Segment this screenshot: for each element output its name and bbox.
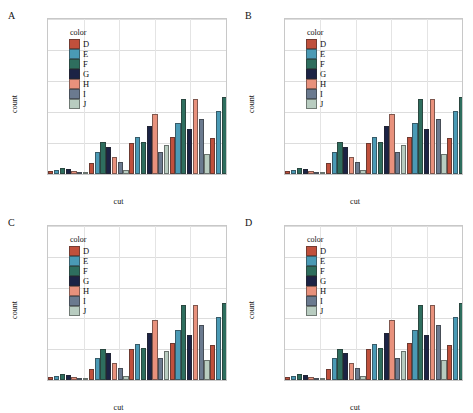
- y-axis-tick-mark: [284, 50, 285, 51]
- panel-label: B: [245, 10, 252, 21]
- legend-label-j: J: [320, 306, 326, 316]
- y-axis-tick-mark: [47, 81, 48, 82]
- bar-very-good-h: [389, 114, 394, 174]
- legend-swatch-f: [306, 266, 317, 276]
- gridline-horizontal: [285, 174, 462, 175]
- bar-very-good-g: [384, 126, 389, 174]
- bar-premium-f: [181, 305, 186, 380]
- y-axis-tick-mark: [284, 287, 285, 288]
- bar-fair-g: [303, 375, 308, 380]
- legend-label-h: H: [320, 286, 326, 296]
- bar-fair-i: [77, 378, 82, 380]
- bar-group: [325, 226, 365, 380]
- bar-fair-e: [54, 376, 59, 380]
- bar-very-good-g: [384, 333, 389, 380]
- legend-swatch-d: [306, 246, 317, 256]
- bar-group: [88, 226, 128, 380]
- bar-premium-g: [187, 335, 192, 380]
- bar-premium-d: [170, 343, 175, 380]
- bar-group: [169, 226, 209, 380]
- bar-good-d: [89, 369, 94, 380]
- bar-fair-i: [314, 172, 319, 174]
- bar-very-good-d: [129, 349, 134, 380]
- bar-very-good-j: [401, 351, 406, 380]
- bar-premium-d: [407, 343, 412, 380]
- chart-panel-d: Dcountcut0e+001e+052e+053e+054e+055e+05F…: [237, 207, 473, 413]
- bar-fair-d: [285, 377, 290, 380]
- bar-good-g: [106, 147, 111, 174]
- plot-wrapper: 0e+001e+052e+053e+054e+055e+05FairGoodVe…: [284, 18, 463, 175]
- bar-group: [406, 19, 446, 174]
- bar-good-d: [326, 163, 331, 174]
- bar-premium-j: [441, 154, 446, 174]
- bar-fair-f: [297, 168, 302, 174]
- legend-swatch-d: [306, 39, 317, 49]
- bar-good-d: [326, 369, 331, 380]
- bar-good-f: [337, 349, 342, 380]
- bar-premium-h: [430, 99, 435, 174]
- bar-fair-d: [48, 171, 53, 174]
- bar-premium-d: [407, 137, 412, 174]
- bar-fair-e: [291, 170, 296, 174]
- bar-fair-h: [308, 377, 313, 380]
- legend-label-j: J: [83, 306, 89, 316]
- legend-swatch-e: [69, 49, 80, 59]
- legend-label-f: F: [320, 266, 326, 276]
- bar-ideal-d: [447, 138, 452, 174]
- bar-group: [210, 19, 227, 174]
- y-axis-tick-mark: [47, 143, 48, 144]
- y-axis-tick-mark: [284, 174, 285, 175]
- legend-title: color: [69, 235, 89, 244]
- bar-ideal-d: [210, 138, 215, 174]
- legend-label-i: I: [320, 296, 326, 306]
- bar-group: [325, 19, 365, 174]
- legend-swatch-column: [69, 39, 80, 109]
- legend-swatch-f: [69, 59, 80, 69]
- legend-label-j: J: [320, 99, 326, 109]
- bar-ideal-e: [216, 317, 221, 380]
- y-axis-tick-mark: [47, 174, 48, 175]
- bar-good-i: [118, 162, 123, 174]
- bar-good-h: [349, 363, 354, 380]
- legend-swatch-column: [306, 39, 317, 109]
- gridline-horizontal: [285, 380, 462, 381]
- bar-fair-i: [314, 378, 319, 380]
- bar-very-good-f: [378, 142, 383, 174]
- bar-good-g: [343, 147, 348, 174]
- bar-group: [366, 19, 406, 174]
- bar-very-good-d: [366, 349, 371, 380]
- y-axis-label: count: [247, 301, 256, 319]
- bar-premium-f: [181, 99, 186, 174]
- legend-label-d: D: [83, 39, 89, 49]
- bar-fair-g: [303, 169, 308, 174]
- x-axis-label: cut: [0, 197, 237, 206]
- legend-label-e: E: [320, 49, 326, 59]
- legend-label-i: I: [83, 296, 89, 306]
- y-axis-tick-mark: [284, 349, 285, 350]
- bar-very-good-i: [158, 152, 163, 174]
- legend-label-e: E: [320, 256, 326, 266]
- bar-fair-h: [71, 171, 76, 174]
- bar-good-f: [337, 142, 342, 174]
- bar-premium-i: [436, 119, 441, 174]
- legend: colorDEFGHIJ: [306, 28, 326, 109]
- legend-swatch-g: [69, 69, 80, 79]
- bar-very-good-f: [141, 348, 146, 380]
- bar-good-d: [89, 163, 94, 174]
- bar-premium-g: [424, 335, 429, 380]
- bar-ideal-f: [222, 303, 227, 380]
- bar-premium-h: [193, 305, 198, 380]
- legend-body: DEFGHIJ: [69, 246, 89, 316]
- bar-very-good-e: [372, 344, 377, 380]
- bar-ideal-d: [210, 345, 215, 380]
- bar-good-h: [112, 363, 117, 380]
- bar-group: [169, 19, 209, 174]
- bar-very-good-h: [152, 320, 157, 380]
- legend-swatch-j: [306, 306, 317, 316]
- bar-premium-f: [418, 305, 423, 380]
- y-axis-tick-mark: [284, 318, 285, 319]
- bar-premium-g: [187, 129, 192, 174]
- bar-good-e: [332, 358, 337, 380]
- bar-good-j: [123, 376, 128, 380]
- bar-good-g: [106, 353, 111, 380]
